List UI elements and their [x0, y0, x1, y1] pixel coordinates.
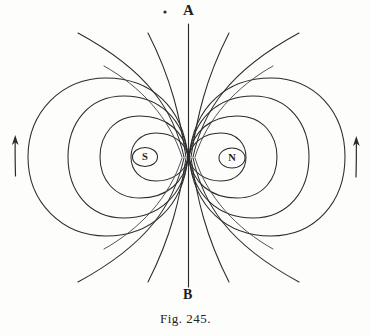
open-line-lr-1	[191, 158, 229, 282]
open-line-lr-2	[193, 158, 299, 282]
open-field-lines-upper-left	[78, 33, 186, 157]
open-line-ur-1	[191, 33, 229, 157]
open-line-ll-1	[148, 158, 186, 282]
south-pole-field-loops	[28, 78, 188, 236]
open-line-ur-2	[193, 33, 299, 157]
field-loop-n-3	[189, 96, 309, 218]
open-line-ul-1	[148, 33, 186, 157]
axis-label-a: A	[183, 3, 194, 18]
right-direction-arrow	[353, 136, 360, 177]
field-loop-n-4	[189, 78, 345, 236]
open-field-lines-lower-right	[191, 158, 299, 282]
figure-caption: Fig. 245.	[0, 311, 371, 327]
north-pole-field-loops	[189, 78, 345, 236]
ink-speck	[163, 10, 166, 13]
magnetic-field-diagram: S N	[0, 0, 371, 336]
open-line-ul-2	[78, 33, 184, 157]
pole-marker-south: S	[133, 148, 158, 167]
left-direction-arrow	[12, 135, 19, 176]
north-pole-letter: N	[228, 152, 236, 163]
south-pole-letter: S	[142, 151, 148, 162]
pole-marker-north: N	[219, 148, 245, 168]
open-field-lines-upper-right	[191, 33, 299, 157]
figure-container: S N A B Fig. 245.	[0, 0, 371, 336]
open-line-ll-2	[78, 158, 184, 282]
axis-label-b: B	[183, 288, 193, 302]
field-loop-s-4	[28, 78, 188, 236]
field-loop-s-3	[68, 96, 188, 218]
open-field-lines-lower-left	[78, 158, 186, 282]
